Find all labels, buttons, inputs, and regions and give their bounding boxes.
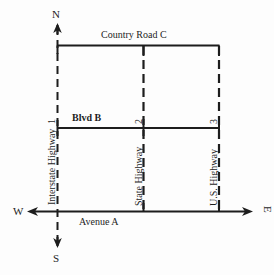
- us-highway-3-label: U.S. Highway: [209, 149, 219, 206]
- interstate-highway-1-number: 1: [47, 119, 57, 124]
- interstate-highway-1-label: Interstate Highway: [47, 129, 57, 205]
- state-highway-2-label: State Highway: [134, 147, 144, 206]
- country-road-c-line: [57, 46, 220, 57]
- compass-south-label: S: [53, 253, 59, 264]
- diagram-canvas: N S W E Country Road C Blvd B Avenue A I…: [0, 0, 274, 275]
- avenue-a-label: Avenue A: [79, 217, 119, 227]
- compass-west-label: W: [13, 206, 24, 217]
- blvd-b-label: Blvd B: [72, 113, 101, 123]
- state-highway-2-number: 2: [134, 119, 144, 124]
- diagram-lines: [0, 0, 274, 275]
- country-road-c-label: Country Road C: [101, 30, 167, 40]
- compass-north-label: N: [52, 9, 60, 20]
- compass-east-label: E: [262, 206, 273, 213]
- us-highway-3-number: 3: [209, 119, 219, 124]
